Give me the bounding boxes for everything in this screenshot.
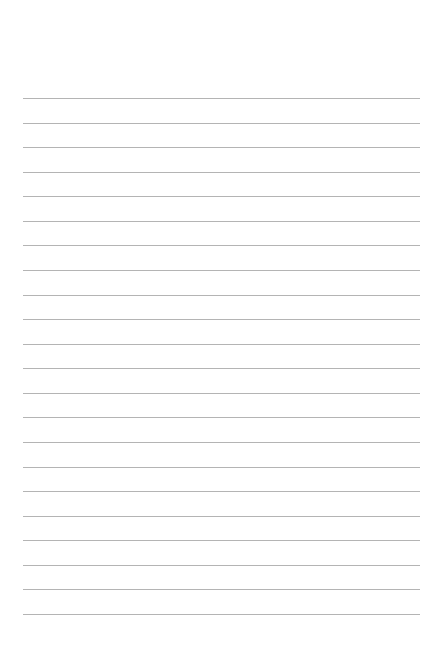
ruled-line — [23, 540, 420, 541]
ruled-line — [23, 270, 420, 271]
ruled-line — [23, 565, 420, 566]
ruled-line — [23, 589, 420, 590]
ruled-line — [23, 368, 420, 369]
ruled-line — [23, 467, 420, 468]
ruled-line — [23, 442, 420, 443]
ruled-line — [23, 172, 420, 173]
ruled-line — [23, 393, 420, 394]
ruled-line — [23, 344, 420, 345]
ruled-line — [23, 516, 420, 517]
ruled-line — [23, 295, 420, 296]
ruled-line — [23, 319, 420, 320]
ruled-line — [23, 614, 420, 615]
lined-paper-page — [0, 0, 442, 645]
ruled-line — [23, 221, 420, 222]
ruled-line — [23, 245, 420, 246]
ruled-line — [23, 417, 420, 418]
ruled-line — [23, 196, 420, 197]
ruled-line — [23, 147, 420, 148]
ruled-line — [23, 123, 420, 124]
ruled-line — [23, 98, 420, 99]
ruled-line — [23, 491, 420, 492]
